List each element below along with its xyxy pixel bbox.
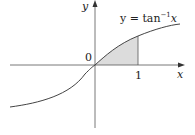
curve-label: y = tan−1x (120, 12, 177, 24)
x-axis-arrow-icon (178, 63, 185, 68)
shaded-area (95, 36, 138, 65)
y-axis-arrow-icon (93, 0, 98, 7)
x-axis-label: x (177, 69, 183, 80)
origin-label: 0 (85, 52, 92, 63)
y-axis-label: y (82, 1, 88, 12)
tick-label-one: 1 (135, 70, 142, 81)
